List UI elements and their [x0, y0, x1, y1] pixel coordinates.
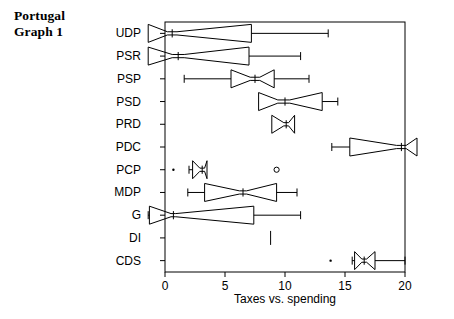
- boxplot-cds: [329, 252, 405, 270]
- outlier-point: [329, 259, 331, 261]
- category-label-group: UDPPSRPSPPSDPRDPDCPCPMDPGDICDS: [114, 26, 141, 267]
- x-axis-tick-group: [165, 272, 405, 277]
- box-notched: [231, 70, 274, 88]
- box-notched: [272, 115, 295, 133]
- boxplot-udp: [148, 24, 328, 42]
- box-notched: [259, 93, 323, 111]
- boxplot-psd: [259, 93, 338, 111]
- category-label-udp: UDP: [116, 26, 141, 40]
- boxplot-psp: [184, 70, 309, 88]
- category-label-g: G: [132, 208, 141, 222]
- box-notched: [355, 252, 375, 270]
- category-label-pcp: PCP: [116, 163, 141, 177]
- box-notched: [350, 138, 417, 156]
- boxplot-figure: UDPPSRPSPPSDPRDPDCPCPMDPGDICDS 05101520 …: [0, 0, 454, 319]
- x-axis-tick-label: 15: [338, 279, 352, 293]
- boxplot-psr: [148, 47, 300, 65]
- boxplot-mdp: [188, 183, 297, 201]
- x-axis-tick-label: 5: [222, 279, 229, 293]
- boxplot-prd: [272, 115, 295, 133]
- boxplot-pcp: [172, 161, 279, 179]
- outlier-point: [172, 169, 174, 171]
- box-group: [148, 24, 417, 269]
- boxplot-pdc: [332, 138, 417, 156]
- category-label-psp: PSP: [117, 72, 141, 86]
- x-axis-label-group: 05101520: [162, 279, 412, 293]
- category-label-mdp: MDP: [114, 185, 141, 199]
- category-label-prd: PRD: [116, 117, 142, 131]
- boxplot-g: [148, 206, 300, 224]
- x-axis-tick-label: 0: [162, 279, 169, 293]
- y-axis-tick-group: [160, 33, 165, 260]
- outlier-point: [274, 167, 279, 172]
- box-notched: [205, 183, 277, 201]
- x-axis-tick-label: 20: [398, 279, 412, 293]
- box-notched: [193, 161, 207, 179]
- chart-page: Portugal Graph 1 UDPPSRPSPPSDPRDPDCPCPMD…: [0, 0, 454, 319]
- x-axis-title: Taxes vs. spending: [234, 292, 336, 306]
- category-label-pdc: PDC: [116, 140, 142, 154]
- category-label-psd: PSD: [116, 95, 141, 109]
- category-label-psr: PSR: [116, 49, 141, 63]
- x-axis-tick-label: 10: [278, 279, 292, 293]
- category-label-cds: CDS: [116, 254, 141, 268]
- category-label-di: DI: [129, 231, 141, 245]
